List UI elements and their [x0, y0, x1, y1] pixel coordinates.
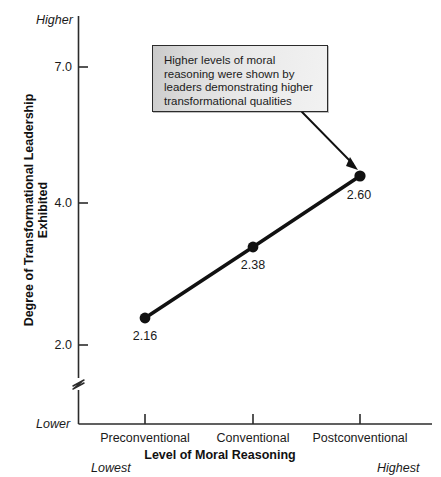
data-point-marker-1	[140, 313, 151, 324]
x-axis-low-anchor-label: Lowest	[91, 462, 131, 475]
x-axis-title: Level of Moral Reasoning	[130, 449, 310, 462]
callout-arrow-shaft	[302, 112, 353, 164]
data-point-label-3: 2.60	[331, 189, 387, 202]
annotation-line-4: transformational qualities	[164, 95, 324, 109]
annotation-callout-box: Higher levels of moral reasoning were sh…	[152, 45, 328, 112]
data-point-label-2: 2.38	[225, 259, 281, 272]
chart-figure: Higher 7.0 4.0 2.0 Lower Degree of Trans…	[0, 0, 441, 477]
annotation-callout-text: Higher levels of moral reasoning were sh…	[164, 54, 324, 108]
y-axis-title: Degree of Transformational Leadership Ex…	[22, 80, 50, 340]
annotation-line-2: reasoning were shown by	[164, 68, 324, 82]
y-tick-label-2: 2.0	[28, 339, 72, 352]
x-axis-high-anchor-label: Highest	[377, 462, 419, 475]
annotation-line-1: Higher levels of moral	[164, 54, 324, 68]
y-axis-break-marker	[73, 380, 84, 389]
data-point-marker-3	[354, 170, 365, 181]
y-axis-bottom-anchor-label: Lower	[36, 418, 70, 431]
x-tick-label-postconventional: Postconventional	[297, 432, 423, 445]
x-tick-label-conventional: Conventional	[198, 432, 308, 445]
data-point-label-1: 2.16	[117, 330, 173, 343]
y-axis-top-anchor-label: Higher	[36, 14, 73, 27]
data-point-marker-2	[248, 242, 259, 253]
x-tick-label-preconventional: Preconventional	[85, 432, 205, 445]
annotation-line-3: leaders demonstrating higher	[164, 81, 324, 95]
y-tick-label-7: 7.0	[28, 61, 72, 74]
